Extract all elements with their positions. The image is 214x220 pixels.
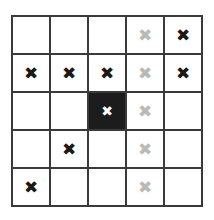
cross-icon: ✖ [101,104,113,118]
cross-icon: ✖ [24,179,38,196]
grid-cell-r5-c5[interactable] [165,169,201,205]
grid-cell-r1-c2[interactable] [51,17,87,53]
cross-grid: ✖✖✖✖✖✖✖✖✖✖✖✖✖ [11,15,203,207]
grid-cell-r4-c2[interactable]: ✖ [51,131,87,167]
grid-cell-r5-c2[interactable] [51,169,87,205]
grid-cell-r4-c3[interactable] [89,131,125,167]
grid-cell-r4-c4[interactable]: ✖ [127,131,163,167]
cross-icon: ✖ [62,65,76,82]
cross-icon: ✖ [176,27,190,44]
cross-icon: ✖ [138,27,152,44]
grid-cell-r5-c1[interactable]: ✖ [13,169,49,205]
cross-icon: ✖ [138,103,152,120]
cross-icon: ✖ [100,65,114,82]
grid-cell-r1-c1[interactable] [13,17,49,53]
grid-cell-r3-c5[interactable] [165,93,201,129]
cross-icon: ✖ [138,141,152,158]
grid-cell-r3-c4[interactable]: ✖ [127,93,163,129]
grid-cell-r4-c5[interactable] [165,131,201,167]
grid-cell-r1-c4[interactable]: ✖ [127,17,163,53]
grid-cell-r1-c5[interactable]: ✖ [165,17,201,53]
grid-cell-r2-c3[interactable]: ✖ [89,55,125,91]
grid-cell-r1-c3[interactable] [89,17,125,53]
cross-icon: ✖ [138,65,152,82]
cross-icon: ✖ [62,141,76,158]
grid-cell-r5-c4[interactable]: ✖ [127,169,163,205]
grid-cell-r2-c2[interactable]: ✖ [51,55,87,91]
cross-icon: ✖ [138,179,152,196]
grid-cell-r2-c5[interactable]: ✖ [165,55,201,91]
grid-cell-r2-c4[interactable]: ✖ [127,55,163,91]
grid-cell-r5-c3[interactable] [89,169,125,205]
grid-cell-r3-c1[interactable] [13,93,49,129]
grid-cell-r3-c2[interactable] [51,93,87,129]
grid-cell-r3-c3[interactable]: ✖ [89,93,125,129]
grid-cell-r2-c1[interactable]: ✖ [13,55,49,91]
grid-cell-r4-c1[interactable] [13,131,49,167]
cross-icon: ✖ [24,65,38,82]
cross-icon: ✖ [176,65,190,82]
